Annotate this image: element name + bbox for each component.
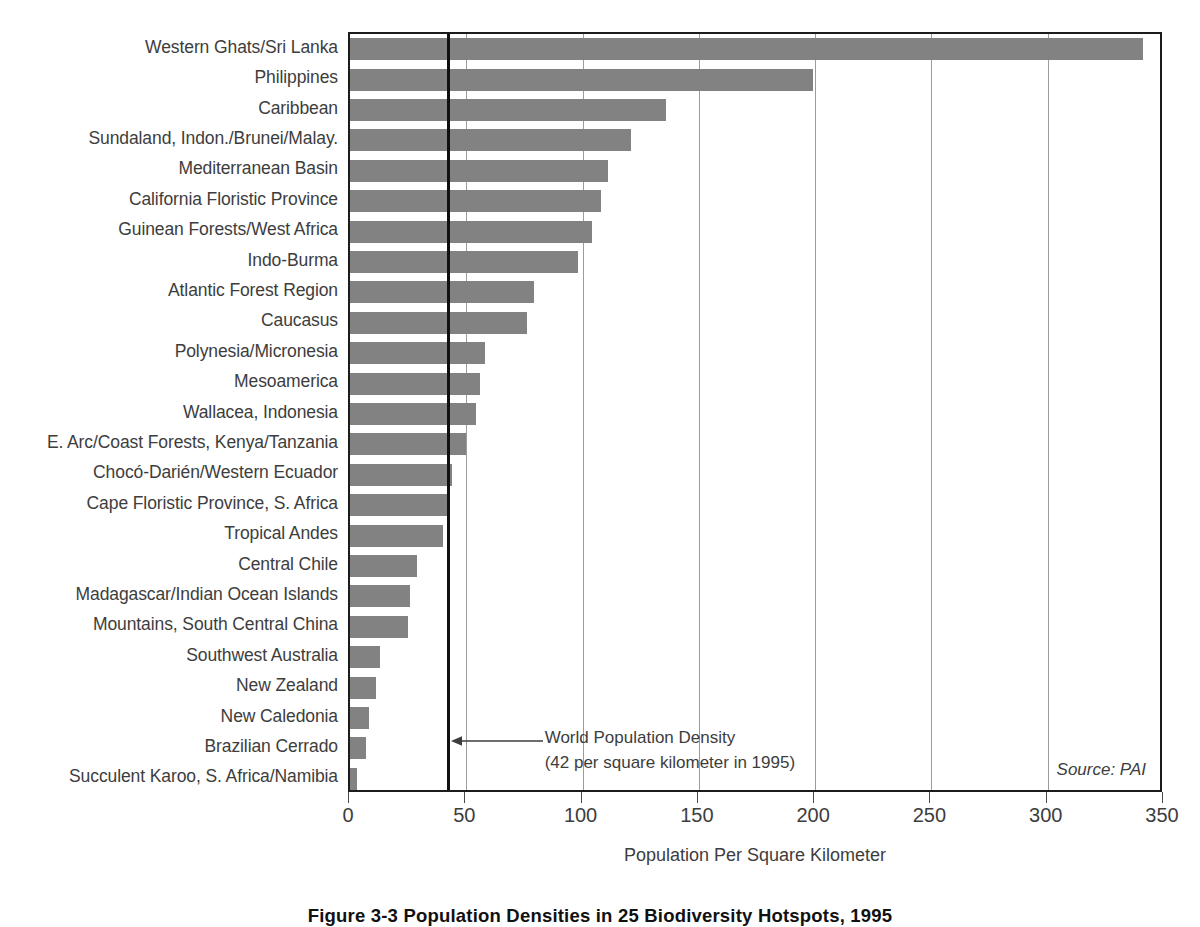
- x-tick-label: 200: [796, 804, 829, 827]
- annotation-arrow-icon: [451, 734, 543, 748]
- category-label: Wallacea, Indonesia: [0, 404, 338, 422]
- bar: [350, 342, 485, 364]
- category-label: New Zealand: [0, 677, 338, 695]
- bar: [350, 251, 578, 273]
- category-label: New Caledonia: [0, 708, 338, 726]
- category-label: California Floristic Province: [0, 191, 338, 209]
- world-density-annotation: World Population Density (42 per square …: [545, 725, 795, 775]
- category-label: E. Arc/Coast Forests, Kenya/Tanzania: [0, 434, 338, 452]
- x-tick-label: 300: [1029, 804, 1062, 827]
- gridline-150: [699, 34, 700, 790]
- x-tick: [929, 792, 930, 803]
- category-label: Caucasus: [0, 312, 338, 330]
- category-label: Brazilian Cerrado: [0, 738, 338, 756]
- bar: [350, 768, 357, 790]
- category-label: Central Chile: [0, 556, 338, 574]
- category-label: Mediterranean Basin: [0, 160, 338, 178]
- category-label: Succulent Karoo, S. Africa/Namibia: [0, 768, 338, 786]
- x-tick-label: 350: [1145, 804, 1178, 827]
- x-axis-title: Population Per Square Kilometer: [348, 845, 1162, 866]
- x-tick: [348, 792, 349, 803]
- annotation-line-2: (42 per square kilometer in 1995): [545, 750, 795, 775]
- category-label: Southwest Australia: [0, 647, 338, 665]
- figure-caption: Figure 3-3 Population Densities in 25 Bi…: [0, 905, 1200, 927]
- bar: [350, 312, 527, 334]
- plot-inner: [350, 34, 1160, 790]
- bar: [350, 585, 410, 607]
- x-tick: [464, 792, 465, 803]
- category-label: Mountains, South Central China: [0, 616, 338, 634]
- x-tick: [813, 792, 814, 803]
- category-label: Madagascar/Indian Ocean Islands: [0, 586, 338, 604]
- x-tick: [581, 792, 582, 803]
- figure-population-densities: Western Ghats/Sri LankaPhilippinesCaribb…: [0, 0, 1200, 927]
- bar: [350, 525, 443, 547]
- category-label: Cape Floristic Province, S. Africa: [0, 495, 338, 513]
- gridline-250: [931, 34, 932, 790]
- category-label: Guinean Forests/West Africa: [0, 221, 338, 239]
- category-label: Philippines: [0, 69, 338, 87]
- category-label: Tropical Andes: [0, 525, 338, 543]
- bar: [350, 190, 601, 212]
- bar: [350, 646, 380, 668]
- bar: [350, 464, 452, 486]
- bar: [350, 373, 480, 395]
- bar: [350, 737, 366, 759]
- bar: [350, 494, 448, 516]
- category-label-column: Western Ghats/Sri LankaPhilippinesCaribb…: [0, 32, 338, 792]
- annotation-line-1: World Population Density: [545, 725, 795, 750]
- gridline-200: [815, 34, 816, 790]
- category-label: Mesoamerica: [0, 373, 338, 391]
- world-density-reference-line: [447, 34, 450, 790]
- gridline-300: [1048, 34, 1049, 790]
- category-label: Caribbean: [0, 100, 338, 118]
- bar: [350, 616, 408, 638]
- x-tick-label: 150: [680, 804, 713, 827]
- bar: [350, 38, 1143, 60]
- source-note: Source: PAI: [1057, 760, 1146, 780]
- bar: [350, 403, 476, 425]
- bar: [350, 677, 376, 699]
- plot-area: World Population Density (42 per square …: [348, 32, 1162, 792]
- category-label: Chocó-Darién/Western Ecuador: [0, 464, 338, 482]
- bar: [350, 99, 666, 121]
- x-axis: 050100150200250300350: [348, 792, 1162, 832]
- x-tick: [1162, 792, 1163, 803]
- bar: [350, 221, 592, 243]
- x-tick: [697, 792, 698, 803]
- bar: [350, 707, 369, 729]
- x-tick-label: 50: [453, 804, 475, 827]
- bar: [350, 281, 534, 303]
- category-label: Western Ghats/Sri Lanka: [0, 39, 338, 57]
- bar: [350, 555, 417, 577]
- bar: [350, 69, 813, 91]
- bar: [350, 160, 608, 182]
- bar: [350, 129, 631, 151]
- x-tick: [1046, 792, 1047, 803]
- category-label: Polynesia/Micronesia: [0, 343, 338, 361]
- x-tick-label: 250: [913, 804, 946, 827]
- category-label: Atlantic Forest Region: [0, 282, 338, 300]
- category-label: Indo-Burma: [0, 252, 338, 270]
- x-tick-label: 100: [564, 804, 597, 827]
- x-tick-label: 0: [342, 804, 353, 827]
- category-label: Sundaland, Indon./Brunei/Malay.: [0, 130, 338, 148]
